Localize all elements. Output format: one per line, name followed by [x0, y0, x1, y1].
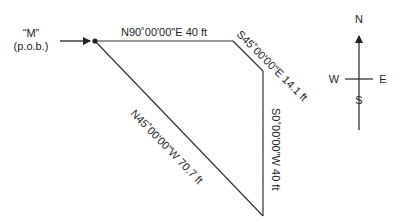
boundary-line-northwest	[95, 41, 263, 216]
pob-label-desc: (p.o.b.)	[14, 40, 49, 52]
compass-rose-icon: N S W E	[329, 13, 387, 130]
course-label-1: N90˚00'00"E 40 ft	[121, 26, 207, 38]
course-label-3: S0˚00'00"W 40 ft	[270, 108, 282, 190]
course-label-4: N45˚00'00"W 70.7 ft	[129, 107, 206, 186]
compass-west-label: W	[329, 73, 340, 85]
course-label-2: S45˚00'00"E 14.1 ft	[235, 28, 310, 103]
point-of-beginning-marker	[92, 38, 97, 43]
compass-north-label: N	[355, 13, 363, 25]
compass-south-label: S	[355, 94, 362, 106]
survey-diagram: “M” (p.o.b.) N90˚00'00"E 40 ft S45˚00'00…	[0, 0, 401, 224]
pob-label-name: “M”	[23, 27, 40, 39]
compass-east-label: E	[379, 73, 386, 85]
